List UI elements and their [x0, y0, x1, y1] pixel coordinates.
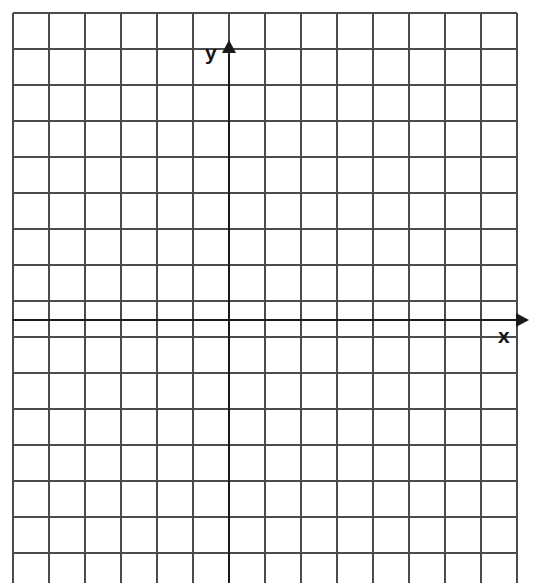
- arrow-right-icon: [516, 313, 529, 327]
- axis-arrowheads: [222, 40, 529, 327]
- y-axis-label: y: [205, 42, 217, 63]
- graph-paper-canvas: y x: [0, 0, 536, 583]
- arrow-up-icon: [222, 40, 236, 53]
- x-axis-label: x: [498, 325, 510, 346]
- grid-lines: [13, 13, 517, 583]
- coordinate-grid: [0, 0, 536, 583]
